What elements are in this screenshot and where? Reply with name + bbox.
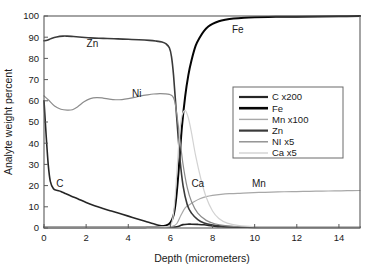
y-tick-label: 40 <box>28 138 39 149</box>
x-tick-label: 10 <box>249 232 260 243</box>
x-axis-title: Depth (micrometers) <box>154 252 250 264</box>
line-chart: 02468101214 0102030405060708090100 Depth… <box>0 0 370 272</box>
chart-figure: 02468101214 0102030405060708090100 Depth… <box>0 0 370 272</box>
y-tick-label: 100 <box>23 10 39 21</box>
legend-label-ca-x5: Ca x5 <box>272 147 297 158</box>
y-tick-label: 20 <box>28 180 39 191</box>
y-tick-label: 10 <box>28 201 39 212</box>
y-tick-label: 0 <box>34 222 39 233</box>
curve-label-ni: Ni <box>132 88 141 99</box>
legend-label-zn: Zn <box>272 125 283 136</box>
x-tick-label: 14 <box>334 232 345 243</box>
chart-legend: C x200FeMn x100ZnNI x5Ca x5 <box>233 87 343 158</box>
legend-label-fe: Fe <box>272 103 283 114</box>
curve-label-mn: Mn <box>252 178 266 189</box>
x-tick-label: 0 <box>41 232 46 243</box>
curve-label-c: C <box>56 178 63 189</box>
curve-label-ca: Ca <box>191 178 204 189</box>
x-tick-label: 4 <box>126 232 131 243</box>
y-axis-title: Analyte weight percent <box>2 69 14 175</box>
y-tick-label: 60 <box>28 95 39 106</box>
y-tick-label: 70 <box>28 74 39 85</box>
legend-label-c-x200: C x200 <box>272 91 302 102</box>
x-tick-label: 2 <box>83 232 88 243</box>
x-tick-label: 12 <box>292 232 303 243</box>
legend-label-mn-x100: Mn x100 <box>272 114 308 125</box>
curve-label-zn: Zn <box>87 38 99 49</box>
y-tick-label: 30 <box>28 159 39 170</box>
x-tick-label: 8 <box>210 232 215 243</box>
legend-label-ni-x5: NI x5 <box>272 136 294 147</box>
y-tick-label: 80 <box>28 53 39 64</box>
y-tick-label: 90 <box>28 32 39 43</box>
curve-label-fe: Fe <box>232 24 244 35</box>
y-tick-label: 50 <box>28 116 39 127</box>
x-tick-label: 6 <box>168 232 173 243</box>
